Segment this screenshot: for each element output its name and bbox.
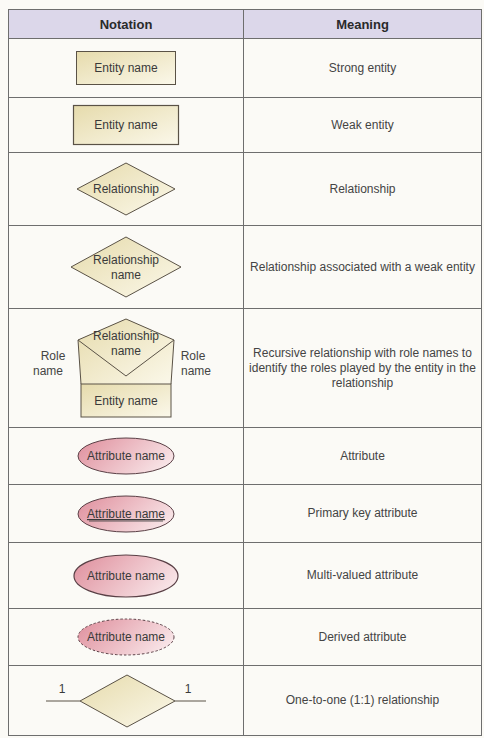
relationship-shape: Relationship	[76, 162, 176, 216]
attribute-label: Attribute name	[87, 449, 165, 463]
meaning-cell: Weak entity	[244, 98, 482, 153]
right-cardinality: 1	[185, 682, 192, 696]
attribute-label: Attribute name	[87, 630, 165, 644]
table-row: 1 1 One-to-one (1:1) relationship	[9, 666, 482, 736]
table-row: Relationship Relationship	[9, 153, 482, 226]
table-row: Entity name Weak entity	[9, 98, 482, 153]
role-left-line1: Role	[41, 349, 66, 363]
role-right-line1: Role	[181, 349, 206, 363]
table-row: Attribute name Derived attribute	[9, 609, 482, 666]
attribute-shape: Attribute name	[77, 437, 175, 475]
relationship-label-line1: Relationship	[93, 253, 159, 267]
entity-label: Entity name	[94, 61, 158, 75]
notation-cell: Attribute name	[9, 543, 244, 609]
table-row: Entity name Strong entity	[9, 39, 482, 98]
table-row: Attribute name Multi-valued attribute	[9, 543, 482, 609]
primary-key-attribute-shape: Attribute name	[77, 495, 175, 533]
multi-valued-attribute-shape: Attribute name	[73, 554, 179, 598]
meaning-cell: Strong entity	[244, 39, 482, 98]
recursive-relationship-shape: Relationship name Entity name Role name …	[26, 318, 226, 418]
meaning-cell: Derived attribute	[244, 609, 482, 666]
derived-attribute-shape: Attribute name	[77, 618, 175, 656]
meaning-cell: Relationship	[244, 153, 482, 226]
meaning-cell: Primary key attribute	[244, 485, 482, 543]
notation-cell: 1 1	[9, 666, 244, 736]
table-row: Relationship name Entity name Role name …	[9, 309, 482, 428]
entity-label: Entity name	[94, 394, 158, 408]
entity-label: Entity name	[94, 118, 158, 132]
notation-cell: Attribute name	[9, 428, 244, 485]
notation-header: Notation	[9, 10, 244, 39]
table-row: Relationship name Relationship associate…	[9, 226, 482, 309]
role-right-line2: name	[181, 364, 211, 378]
relationship-label: Relationship	[93, 182, 159, 196]
header-row: Notation Meaning	[9, 10, 482, 39]
left-cardinality: 1	[59, 682, 66, 696]
notation-cell: Entity name	[9, 39, 244, 98]
notation-cell: Entity name	[9, 98, 244, 153]
meaning-cell: One-to-one (1:1) relationship	[244, 666, 482, 736]
attribute-label: Attribute name	[87, 569, 165, 583]
notation-cell: Relationship name	[9, 226, 244, 309]
notation-cell: Relationship name Entity name Role name …	[9, 309, 244, 428]
meaning-cell: Multi-valued attribute	[244, 543, 482, 609]
relationship-label-line2: name	[111, 344, 141, 358]
meaning-cell: Recursive relationship with role names t…	[244, 309, 482, 428]
meaning-cell: Relationship associated with a weak enti…	[244, 226, 482, 309]
table-row: Attribute name Primary key attribute	[9, 485, 482, 543]
notation-cell: Attribute name	[9, 485, 244, 543]
relationship-label-line2: name	[111, 268, 141, 282]
meaning-cell: Attribute	[244, 428, 482, 485]
weak-relationship-shape: Relationship name	[70, 236, 182, 298]
strong-entity-shape: Entity name	[76, 51, 176, 85]
meaning-header: Meaning	[244, 10, 482, 39]
chen-notation-table: Notation Meaning Entity name Strong enti…	[8, 9, 482, 736]
notation-cell: Relationship	[9, 153, 244, 226]
attribute-label: Attribute name	[87, 507, 165, 521]
weak-entity-shape: Entity name	[73, 105, 179, 145]
table-row: Attribute name Attribute	[9, 428, 482, 485]
relationship-label-line1: Relationship	[93, 329, 159, 343]
one-to-one-shape: 1 1	[46, 674, 206, 728]
role-left-line2: name	[33, 364, 63, 378]
notation-cell: Attribute name	[9, 609, 244, 666]
